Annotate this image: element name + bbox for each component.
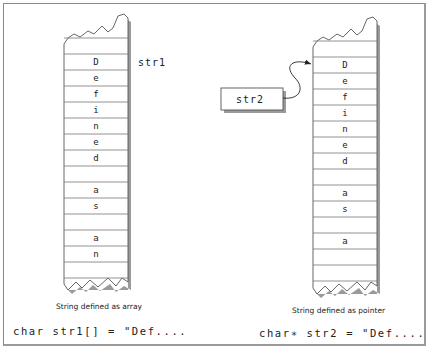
- memory-cell-char: a: [93, 233, 98, 243]
- memory-cell-char: e: [342, 140, 347, 150]
- memory-cell-char: d: [342, 156, 347, 166]
- memory-cell-char: e: [93, 73, 98, 83]
- str1-label: str1: [138, 57, 166, 68]
- svg-text:str2: str2: [236, 94, 264, 105]
- memory-cell-char: e: [342, 76, 347, 86]
- memory-cell-char: n: [93, 249, 98, 259]
- pointer-code: char∗ str2 = "Def....: [259, 327, 425, 339]
- str2-pointer-box: str2: [221, 88, 286, 113]
- memory-cell-char: D: [342, 60, 347, 70]
- pointer-caption: String defined as pointer: [292, 306, 386, 315]
- memory-cell-char: d: [93, 153, 98, 163]
- memory-cell-char: e: [93, 137, 98, 147]
- memory-cell-char: i: [93, 105, 98, 115]
- memory-cell-char: f: [93, 89, 98, 99]
- memory-cell-char: f: [342, 92, 347, 102]
- array-code: char str1[] = "Def....: [13, 325, 187, 337]
- memory-cell-char: a: [93, 185, 98, 195]
- array-memory-column: Definedasan: [64, 14, 131, 294]
- memory-cell-char: a: [342, 188, 347, 198]
- pointer-arrow: [283, 62, 311, 98]
- diagram-canvas: Definedasan str1 Definedasa str2 String …: [0, 0, 432, 353]
- memory-cell-char: s: [342, 204, 347, 214]
- memory-cell-char: s: [93, 201, 98, 211]
- pointer-memory-column: Definedasa: [313, 17, 380, 298]
- memory-cell-char: D: [93, 57, 98, 67]
- memory-cell-char: n: [342, 124, 347, 134]
- memory-cell-char: n: [93, 121, 98, 131]
- array-caption: String defined as array: [56, 302, 142, 311]
- memory-cell-char: a: [342, 236, 347, 246]
- memory-cell-char: i: [342, 108, 347, 118]
